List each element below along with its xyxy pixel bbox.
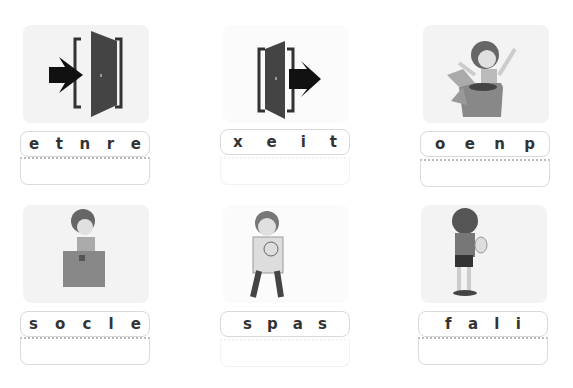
scrambled-letters: o e n p: [420, 131, 550, 157]
answer-box[interactable]: [220, 339, 350, 367]
letter: e: [131, 315, 141, 333]
picture-enter: [23, 25, 149, 123]
answer-box[interactable]: [420, 159, 550, 187]
letter: r: [107, 135, 114, 153]
letter: l: [494, 315, 499, 333]
letter: e: [465, 135, 475, 153]
boy-crying-fail-test-illustration: [421, 205, 547, 303]
letter: p: [524, 135, 535, 153]
letter: e: [131, 135, 141, 153]
letter: t: [330, 133, 337, 151]
boy-closing-box-illustration: [23, 205, 149, 303]
letter: x: [233, 133, 243, 151]
letter: f: [445, 315, 452, 333]
letter: e: [267, 133, 277, 151]
scrambled-letters: s o c l e: [20, 311, 150, 337]
exit-door-icon: [223, 25, 349, 123]
letter: l: [109, 315, 114, 333]
scrambled-letters: e t n r e: [20, 131, 150, 157]
answer-box[interactable]: [418, 337, 548, 365]
scrambled-letters: f a l i: [418, 311, 548, 337]
answer-box[interactable]: [20, 337, 150, 365]
letter: a: [468, 315, 478, 333]
letter: c: [83, 315, 92, 333]
letter: s: [318, 315, 327, 333]
picture-pass: [223, 205, 349, 303]
letter: a: [293, 315, 303, 333]
scrambled-letters: x e i t: [220, 129, 350, 155]
letter: n: [80, 135, 91, 153]
letter: s: [243, 315, 252, 333]
letter: t: [56, 135, 63, 153]
letter: s: [29, 315, 38, 333]
letter: o: [55, 315, 65, 333]
letter: i: [301, 133, 306, 151]
letter: i: [516, 315, 521, 333]
picture-exit: [223, 25, 349, 123]
scrambled-letters: s p a s: [220, 311, 350, 337]
letter: e: [29, 135, 39, 153]
letter: n: [494, 135, 505, 153]
boy-opening-box-illustration: [423, 25, 549, 123]
answer-box[interactable]: [20, 157, 150, 185]
picture-open: [423, 25, 549, 123]
answer-box[interactable]: [220, 157, 350, 185]
enter-door-icon: [23, 25, 149, 123]
picture-close: [23, 205, 149, 303]
boy-with-pass-test-illustration: [223, 205, 349, 303]
picture-fail: [421, 205, 547, 303]
letter: p: [267, 315, 278, 333]
letter: o: [435, 135, 445, 153]
